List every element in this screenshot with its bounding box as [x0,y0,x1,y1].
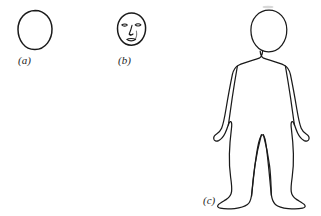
paper-smudge [263,6,274,8]
panel-c-label: (c) [203,194,216,207]
canvas-background [0,0,321,216]
figure-canvas: (a) (b) (c) [0,0,321,216]
panel-b-label: (b) [118,54,131,67]
panel-a-label: (a) [18,54,31,67]
